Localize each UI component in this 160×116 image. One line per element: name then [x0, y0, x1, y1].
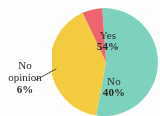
slice-label-yes-percent: 54% [84, 41, 132, 52]
slice-label-no-opinion-percent: 6% [0, 84, 50, 96]
slice-label-no-percent: 40% [90, 87, 138, 98]
slice-label-yes: Yes 54% [84, 30, 132, 52]
pie-graphic [52, 8, 160, 116]
leader-line-no-opinion [36, 66, 62, 84]
pie-chart-figure: Yes 54% No 40% No opinion 6% [0, 0, 160, 116]
chart-title-cropped [60, 0, 122, 1]
slice-label-no: No 40% [90, 76, 138, 98]
pie-svg [52, 8, 160, 116]
